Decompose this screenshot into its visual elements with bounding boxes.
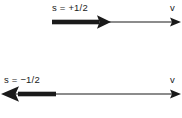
spin-arrow-down-shaft xyxy=(18,92,56,97)
spin-arrow-up-thick xyxy=(52,15,111,29)
spin-down-vector-group xyxy=(0,84,182,108)
spin-up-vector-group xyxy=(0,12,182,36)
spin-up-row: s = +1/2 v xyxy=(0,0,182,40)
spin-arrow-down-thick xyxy=(1,86,56,102)
spin-arrow-up-shaft xyxy=(52,20,99,25)
spin-velocity-diagram: s = +1/2 v s = −1/2 v xyxy=(0,0,182,118)
spin-down-row: s = −1/2 v xyxy=(0,72,182,118)
